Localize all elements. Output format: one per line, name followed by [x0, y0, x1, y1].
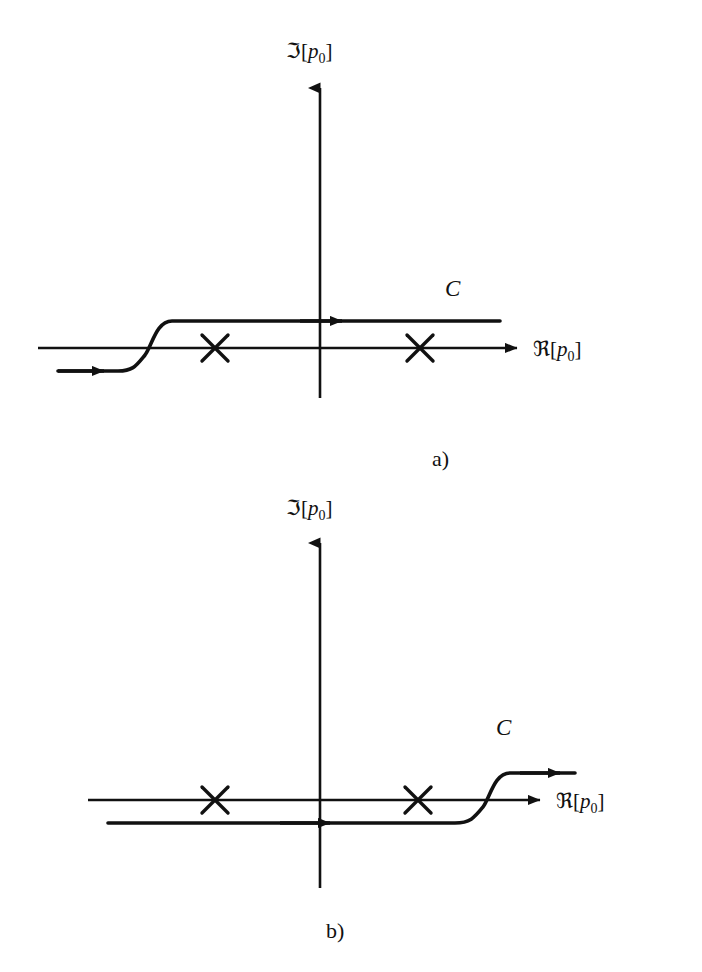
imaginary-axis-label-b: ℑ[p0]: [286, 496, 333, 523]
imaginary-subscript-a: 0: [319, 51, 326, 66]
imaginary-bracket-close-b: ]: [326, 496, 333, 520]
imaginary-variable-b: p: [306, 496, 319, 520]
imaginary-bracket-close-a: ]: [326, 39, 333, 63]
real-symbol-a: ℜ: [533, 337, 550, 361]
real-bracket-open-b: [: [573, 789, 580, 813]
imaginary-symbol-b: ℑ: [286, 496, 301, 520]
contour-label-b: C: [496, 715, 512, 740]
imaginary-symbol-a: ℑ: [286, 39, 301, 63]
panel-label-b: b): [326, 918, 344, 943]
contour-path-b: [108, 773, 575, 823]
panel-a: ℑ[p0] ℜ[p0] C a): [38, 39, 582, 471]
panel-label-a: a): [432, 446, 449, 471]
figure-canvas: ℑ[p0] ℜ[p0] C a): [0, 0, 702, 972]
real-bracket-close-b: ]: [598, 789, 605, 813]
real-variable-b: p: [578, 789, 591, 813]
panel-b: ℑ[p0] ℜ[p0] C b): [88, 496, 605, 943]
real-subscript-b: 0: [591, 801, 598, 816]
real-bracket-close-a: ]: [575, 337, 582, 361]
real-axis-label-a: ℜ[p0]: [533, 337, 582, 364]
real-bracket-open-a: [: [550, 337, 557, 361]
contour-path-a: [58, 321, 500, 371]
imaginary-variable-a: p: [306, 39, 319, 63]
real-subscript-a: 0: [568, 349, 575, 364]
real-symbol-b: ℜ: [556, 789, 573, 813]
imaginary-bracket-open-a: [: [301, 39, 308, 63]
imaginary-bracket-open-b: [: [301, 496, 308, 520]
imaginary-axis-label-a: ℑ[p0]: [286, 39, 333, 66]
contour-figure: ℑ[p0] ℜ[p0] C a): [0, 0, 702, 972]
contour-label-a: C: [445, 276, 461, 301]
imaginary-subscript-b: 0: [319, 508, 326, 523]
real-axis-label-b: ℜ[p0]: [556, 789, 605, 816]
real-variable-a: p: [555, 337, 568, 361]
